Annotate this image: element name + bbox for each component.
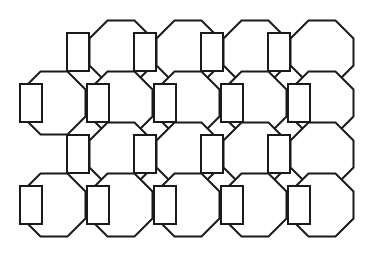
square-tile-r1-c4 (268, 33, 290, 71)
square-tile-r4-c3 (154, 186, 176, 224)
square-tile-r1-c2 (134, 33, 156, 71)
square-tile-r2-c3 (154, 84, 176, 122)
square-tile-r2-c1 (20, 84, 42, 122)
square-tile-r2-c5 (288, 84, 310, 122)
square-tile-r4-c1 (20, 186, 42, 224)
tiling-figure (0, 0, 367, 260)
square-tile-r3-c1 (67, 135, 89, 173)
square-tile-r4-c5 (288, 186, 310, 224)
square-tile-r4-c4 (221, 186, 243, 224)
square-tile-r3-c4 (268, 135, 290, 173)
square-tile-r4-c2 (87, 186, 109, 224)
square-tile-r1-c3 (201, 33, 223, 71)
square-tile-r3-c2 (134, 135, 156, 173)
square-tile-r3-c3 (201, 135, 223, 173)
square-tile-r2-c4 (221, 84, 243, 122)
truncated-square-tiling-canvas (0, 0, 367, 260)
square-tile-r2-c2 (87, 84, 109, 122)
square-tile-r1-c1 (67, 33, 89, 71)
